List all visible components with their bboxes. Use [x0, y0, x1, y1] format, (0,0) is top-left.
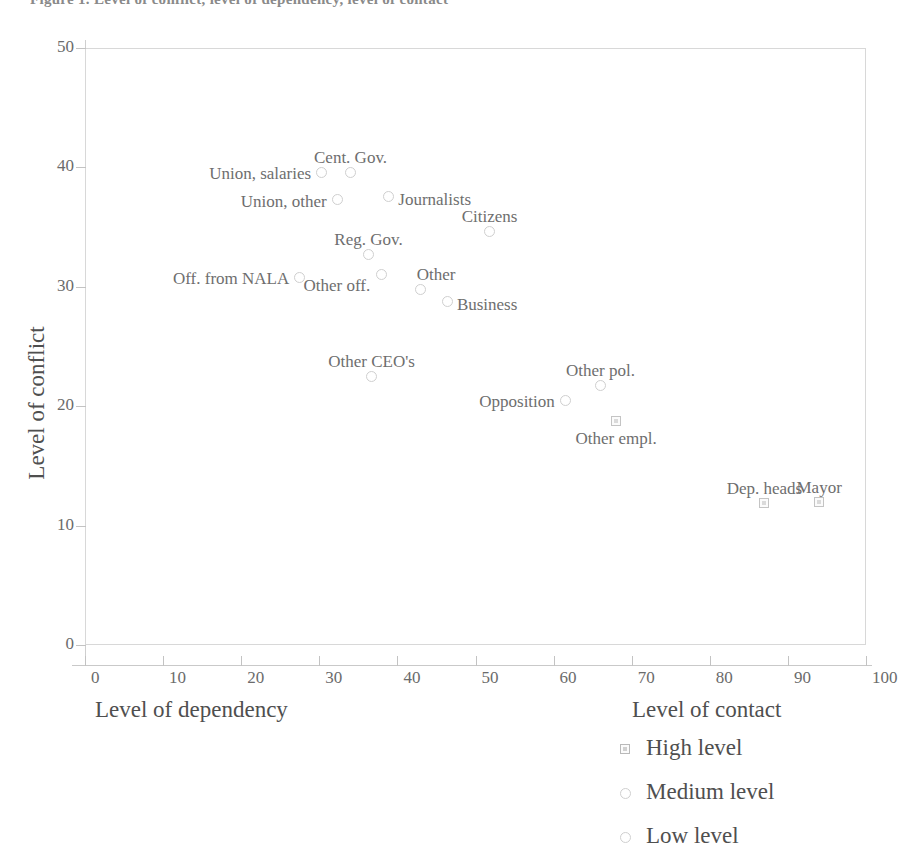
data-point-marker[interactable]: [759, 498, 769, 508]
x-tick: [632, 656, 633, 666]
y-tick-label: 0: [28, 634, 74, 654]
data-point-marker[interactable]: [814, 497, 824, 507]
legend-item[interactable]: Medium level: [620, 779, 910, 823]
data-point-label: Union, other: [241, 193, 327, 210]
x-axis-line: [72, 665, 872, 666]
data-point-label: Other pol.: [566, 362, 635, 379]
y-axis-title: Level of conflict: [24, 288, 50, 518]
legend: High levelMedium levelLow level: [620, 735, 910, 861]
data-point-label: Journalists: [398, 191, 471, 208]
data-point-label: Cent. Gov.: [314, 149, 387, 166]
x-tick: [163, 656, 164, 666]
x-tick: [866, 656, 867, 666]
data-point-label: Mayor: [796, 479, 841, 496]
legend-item[interactable]: Low level: [620, 823, 910, 861]
circle-marker-icon: [620, 788, 631, 799]
data-point-marker[interactable]: [611, 416, 621, 426]
x-axis-title-contact: Level of contact: [632, 697, 781, 723]
data-point-marker[interactable]: [366, 371, 377, 382]
y-tick: [76, 406, 86, 407]
y-tick: [76, 48, 86, 49]
data-point-marker[interactable]: [383, 191, 394, 202]
data-point-marker[interactable]: [345, 167, 356, 178]
data-point-marker[interactable]: [560, 395, 571, 406]
circle-marker-icon: [620, 832, 631, 843]
x-tick-label: 30: [325, 668, 342, 688]
y-tick: [76, 645, 86, 646]
data-point-label: Dep. heads: [727, 480, 803, 497]
x-tick-label: 90: [794, 668, 811, 688]
x-tick: [554, 656, 555, 666]
x-tick-label: 50: [482, 668, 499, 688]
x-tick: [476, 656, 477, 666]
data-point-marker[interactable]: [332, 194, 343, 205]
data-point-marker[interactable]: [316, 167, 327, 178]
chart-title: Figure 1. Level of conflict, level of de…: [30, 0, 890, 7]
legend-item[interactable]: High level: [620, 735, 910, 779]
data-point-label: Citizens: [462, 208, 518, 225]
data-point-marker[interactable]: [415, 284, 426, 295]
data-point-label: Other empl.: [575, 430, 656, 447]
x-tick-label: 60: [560, 668, 577, 688]
data-point-label: Other off.: [304, 277, 371, 294]
x-tick-label: 20: [247, 668, 264, 688]
x-tick: [85, 656, 86, 666]
data-point-label: Business: [457, 296, 517, 313]
legend-item-label: Medium level: [646, 779, 774, 805]
x-tick-label: 0: [91, 668, 100, 688]
y-tick: [76, 526, 86, 527]
x-tick: [319, 656, 320, 666]
data-point-label: Other CEO's: [328, 353, 415, 370]
y-tick: [76, 167, 86, 168]
square-marker-icon: [620, 744, 630, 754]
x-tick-label: 70: [638, 668, 655, 688]
x-axis-title-dependency: Level of dependency: [95, 697, 288, 723]
data-point-marker[interactable]: [363, 249, 374, 260]
data-point-label: Other: [417, 266, 456, 283]
legend-item-label: High level: [646, 735, 742, 761]
data-point-label: Union, salaries: [209, 165, 311, 182]
data-point-label: Off. from NALA: [173, 270, 289, 287]
x-tick: [397, 656, 398, 666]
y-tick: [76, 287, 86, 288]
data-point-marker[interactable]: [442, 296, 453, 307]
y-tick-label: 40: [28, 156, 74, 176]
data-point-label: Opposition: [479, 393, 555, 410]
x-tick-label: 10: [169, 668, 186, 688]
x-tick: [788, 656, 789, 666]
x-tick-label: 80: [716, 668, 733, 688]
x-tick-label: 100: [872, 668, 898, 688]
x-tick: [710, 656, 711, 666]
legend-item-label: Low level: [646, 823, 739, 849]
x-tick-label: 40: [403, 668, 420, 688]
data-point-label: Reg. Gov.: [334, 231, 402, 248]
y-tick-label: 50: [28, 37, 74, 57]
x-tick: [241, 656, 242, 666]
plot-area: [85, 48, 866, 645]
